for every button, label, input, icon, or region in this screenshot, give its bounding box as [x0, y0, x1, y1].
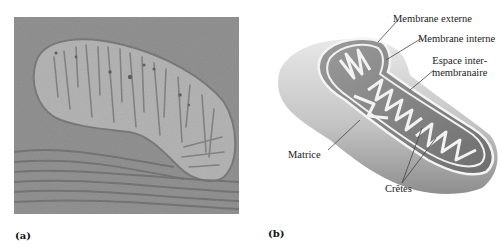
panel-b-label: (b) [268, 228, 284, 239]
panel-b-diagram: Membrane externe Membrane interne Espace… [250, 0, 502, 247]
electron-micrograph [14, 17, 239, 214]
label-espace-line1: Espace inter- [432, 55, 487, 67]
label-espace-intermembranaire: Espace inter- membranaire [432, 55, 487, 79]
label-membrane-externe: Membrane externe [393, 13, 472, 25]
label-matrice: Matrice [288, 149, 321, 161]
panel-a-micrograph: (a) [0, 0, 250, 247]
label-espace-line2: membranaire [432, 67, 487, 79]
panel-a-label: (a) [15, 230, 31, 241]
micrograph-image [14, 17, 239, 214]
label-membrane-interne: Membrane interne [418, 33, 495, 45]
label-cretes: Crêtes [385, 183, 412, 195]
